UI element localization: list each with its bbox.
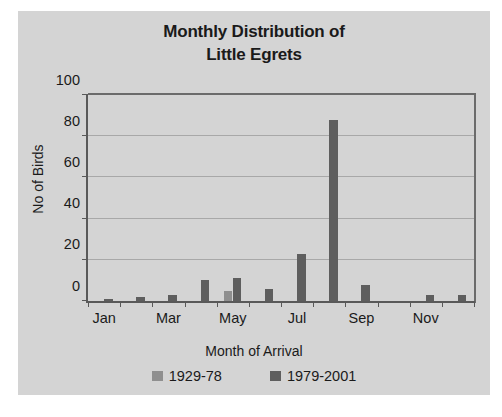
x-axis-tick-mark: [120, 301, 121, 307]
gridline: [88, 176, 474, 177]
bar: [329, 120, 338, 301]
bar: [265, 289, 274, 301]
x-axis-tick-label: Mar: [156, 310, 181, 326]
legend-swatch-icon: [270, 371, 281, 381]
x-axis-tick-mark: [152, 301, 153, 307]
x-axis-tick-mark: [185, 301, 186, 307]
y-axis-tick-label: 80: [64, 113, 80, 129]
bar: [201, 280, 210, 301]
y-axis-tick-label: 60: [64, 154, 80, 170]
chart-container: Monthly Distribution of Little Egrets No…: [18, 11, 490, 395]
x-axis-tick-mark: [442, 301, 443, 307]
x-axis-tick-mark: [378, 301, 379, 307]
x-axis-tick-label: Sep: [349, 310, 375, 326]
bar: [224, 291, 233, 301]
bar: [426, 295, 435, 301]
chart-title-line-2: Little Egrets: [18, 43, 490, 66]
x-axis-tick-mark: [88, 301, 89, 307]
x-axis-tick-label: Jul: [288, 310, 307, 326]
x-axis-tick-label: Jan: [92, 310, 115, 326]
bar: [361, 285, 370, 301]
gridline: [88, 135, 474, 136]
legend-label: 1979-2001: [287, 368, 356, 384]
legend-item: 1929-78: [152, 368, 222, 384]
y-axis-tick-mark: [82, 176, 88, 177]
y-axis-tick-label: 20: [64, 236, 80, 252]
y-axis-tick-mark: [82, 218, 88, 219]
bar: [297, 254, 306, 301]
legend-swatch-icon: [152, 371, 163, 381]
y-axis-title: No of Birds: [30, 119, 46, 239]
x-axis-title: Month of Arrival: [18, 343, 490, 359]
bar: [233, 278, 242, 301]
bar: [104, 299, 113, 301]
x-axis-tick-mark: [313, 301, 314, 307]
chart-legend: 1929-781979-2001: [18, 368, 490, 384]
y-axis-tick-mark: [82, 94, 88, 95]
gridline: [88, 259, 474, 260]
y-axis-tick-mark: [82, 135, 88, 136]
x-axis-tick-mark: [410, 301, 411, 307]
bar: [136, 297, 145, 301]
plot-right-border: [474, 93, 476, 303]
gridline: [88, 218, 474, 219]
chart-title: Monthly Distribution of Little Egrets: [18, 20, 490, 66]
x-axis-tick-mark: [345, 301, 346, 307]
x-axis-tick-label: Nov: [413, 310, 439, 326]
plot-top-border: [88, 93, 474, 95]
chart-title-line-1: Monthly Distribution of: [163, 22, 344, 41]
x-axis-tick-mark: [474, 301, 475, 307]
x-axis-tick-mark: [281, 301, 282, 307]
y-axis-tick-label: 40: [64, 195, 80, 211]
y-axis-tick-mark: [82, 259, 88, 260]
y-axis-tick-label: 100: [56, 72, 80, 88]
legend-item: 1979-2001: [270, 368, 356, 384]
y-axis-tick-label: 0: [72, 278, 80, 294]
x-axis-tick-label: May: [219, 310, 246, 326]
bar: [458, 295, 467, 301]
x-axis-tick-mark: [249, 301, 250, 307]
bar: [168, 295, 177, 301]
legend-label: 1929-78: [169, 368, 222, 384]
x-axis-tick-mark: [217, 301, 218, 307]
plot-area: 020406080100 JanMarMayJulSepNov: [86, 95, 474, 303]
